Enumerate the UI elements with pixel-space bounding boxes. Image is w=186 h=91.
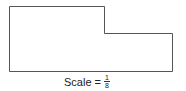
scale-caption: Scale = 1 8 bbox=[64, 74, 110, 89]
scale-label: Scale = bbox=[64, 76, 101, 88]
scale-denominator: 8 bbox=[105, 82, 109, 89]
scale-numerator: 1 bbox=[104, 74, 110, 82]
scale-fraction: 1 8 bbox=[104, 74, 110, 89]
